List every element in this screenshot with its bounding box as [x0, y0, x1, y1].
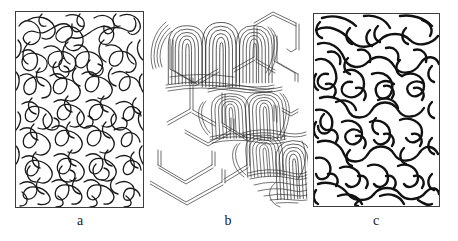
- panel-c-caption: c: [356, 214, 396, 228]
- panel-c-semicrystalline: [313, 13, 440, 207]
- figure-root: a b c: [0, 0, 458, 241]
- panel-b-drawing: [150, 5, 308, 208]
- panel-b-caption: b: [208, 214, 248, 228]
- panel-a-drawing: [16, 12, 143, 207]
- panel-c-drawing: [314, 14, 439, 206]
- panel-a-caption: a: [60, 214, 100, 228]
- panel-a-amorphous: [15, 11, 144, 208]
- panel-b-folded-chain-lamellae: [150, 5, 308, 208]
